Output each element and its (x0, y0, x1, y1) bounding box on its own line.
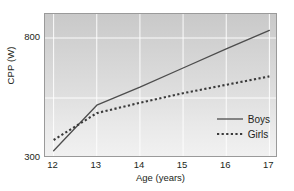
x-tick-label: 14 (124, 159, 154, 170)
x-tick-label: 16 (210, 159, 240, 170)
y-tick-label: 300 (14, 151, 40, 162)
y-tick-label: 800 (14, 31, 40, 42)
x-tick-label: 12 (38, 159, 68, 170)
x-axis-title: Age (years) (44, 172, 277, 183)
plot-area: Boys Girls (44, 13, 277, 157)
legend-label-boys: Boys (248, 114, 270, 125)
chart-legend: Boys Girls (217, 113, 270, 140)
x-tick-label: 17 (253, 159, 283, 170)
y-axis-tick-labels: 300800 (12, 0, 40, 191)
x-tick-label: 15 (167, 159, 197, 170)
figure-cpp-vs-age: CPP (W) 300800 Boys (0, 0, 294, 191)
legend-swatch-solid-icon (217, 115, 243, 123)
x-axis-tick-labels: 121314151617 (44, 159, 277, 173)
x-tick-label: 13 (81, 159, 111, 170)
y-gridlines (45, 38, 277, 98)
legend-swatch-dotted-icon (217, 130, 243, 138)
legend-item-boys: Boys (217, 113, 270, 125)
legend-item-girls: Girls (217, 128, 269, 140)
legend-label-girls: Girls (248, 129, 269, 140)
cropped-page-caption (0, 184, 294, 191)
